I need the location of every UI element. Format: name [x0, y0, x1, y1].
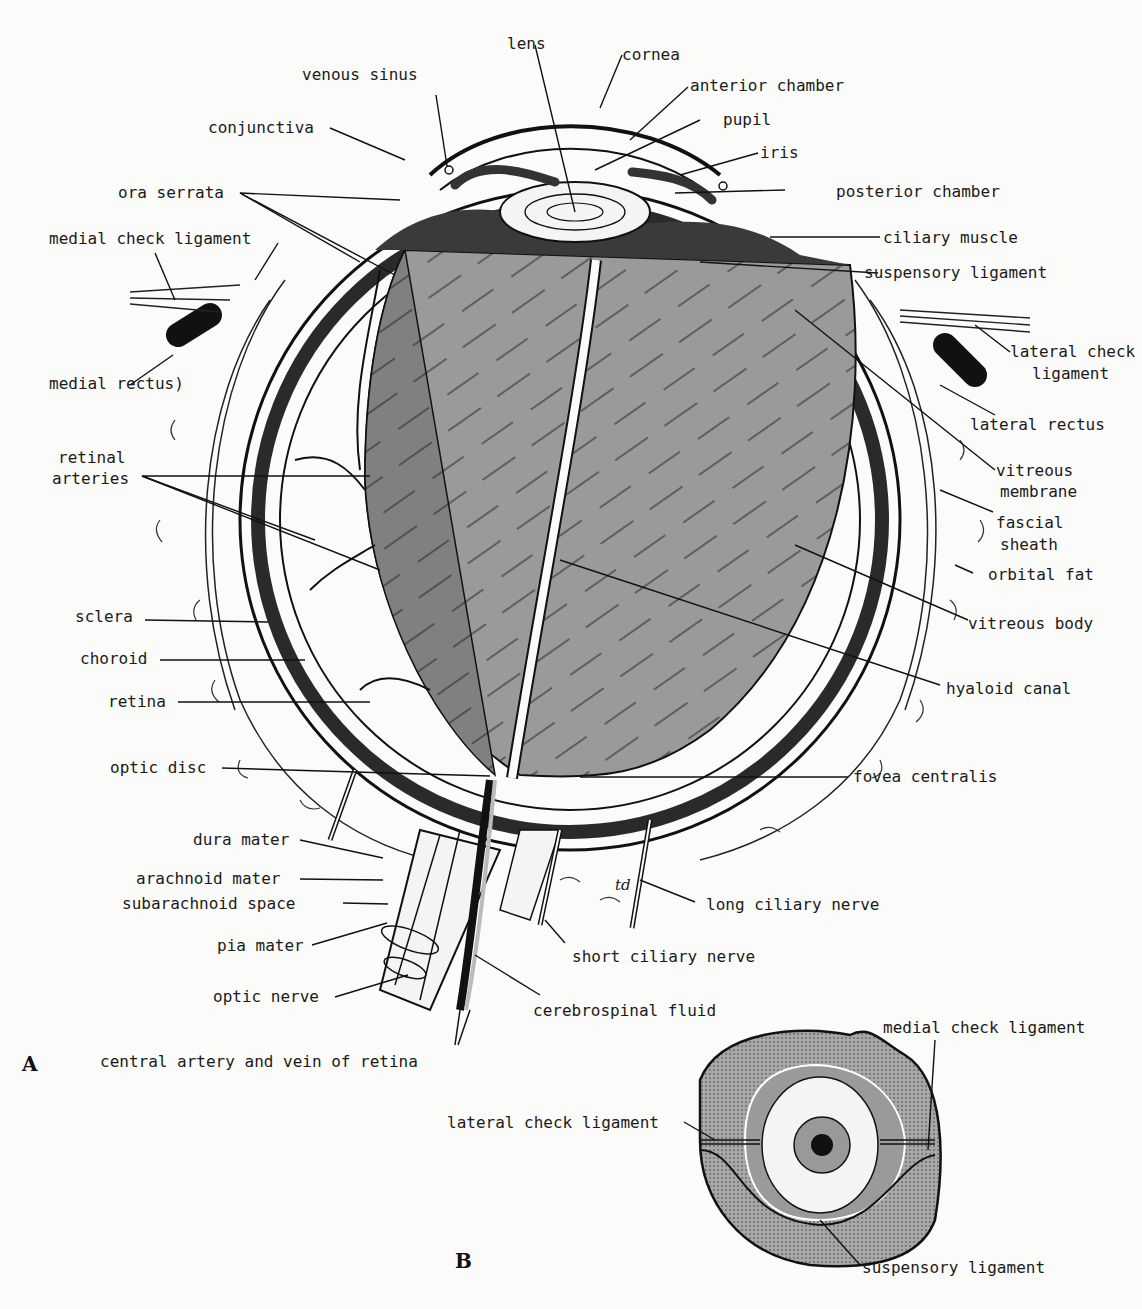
label-conjunctiva: conjunctiva — [208, 119, 314, 137]
label-lateral-rectus: lateral rectus — [970, 416, 1105, 434]
label-sclera: sclera — [75, 608, 133, 626]
label-hyaloid-canal: hyaloid canal — [946, 680, 1071, 698]
label-vitreous-membrane-line1: vitreous — [996, 462, 1073, 480]
label-ciliary-muscle: ciliary muscle — [883, 229, 1018, 247]
label-pia-mater: pia mater — [217, 937, 304, 955]
eye-anatomy-figure: lens cornea venous sinus anterior chambe… — [0, 0, 1142, 1309]
panel-b-letter: B — [455, 1249, 472, 1273]
label-retina: retina — [108, 693, 166, 711]
medial-rectus-muscle — [130, 285, 240, 335]
label-posterior-chamber: posterior chamber — [836, 183, 1000, 201]
label-dura-mater: dura mater — [193, 831, 289, 849]
label-cornea: cornea — [622, 46, 680, 64]
label-long-ciliary-nerve: long ciliary nerve — [706, 896, 879, 914]
label-optic-disc: optic disc — [110, 759, 206, 777]
label-lateral-check-ligament-line2: ligament — [1032, 365, 1109, 383]
iris-right — [632, 172, 712, 200]
label-retinal-arteries-line1: retinal — [58, 449, 125, 467]
label-b-medial-check-ligament: medial check ligament — [883, 1019, 1085, 1037]
label-medial-check-ligament: medial check ligament — [49, 230, 251, 248]
label-lens: lens — [507, 35, 546, 53]
cornea-outline — [430, 126, 720, 175]
label-pupil: pupil — [723, 111, 771, 129]
venous-sinus-right — [719, 182, 727, 190]
label-subarachnoid-space: subarachnoid space — [122, 895, 295, 913]
label-retinal-arteries-line2: arteries — [52, 470, 129, 488]
label-suspensory-ligament: suspensory ligament — [864, 264, 1047, 282]
label-iris: iris — [760, 144, 799, 162]
label-cerebrospinal-fluid: cerebrospinal fluid — [533, 1002, 716, 1020]
label-central-artery-vein: central artery and vein of retina — [100, 1053, 418, 1071]
label-b-lateral-check-ligament: lateral check ligament — [447, 1114, 659, 1132]
label-arachnoid-mater: arachnoid mater — [136, 870, 281, 888]
label-short-ciliary-nerve: short ciliary nerve — [572, 948, 755, 966]
label-vitreous-body: vitreous body — [968, 615, 1093, 633]
label-orbital-fat: orbital fat — [988, 566, 1094, 584]
label-fovea-centralis: fovea centralis — [853, 768, 998, 786]
label-fascial-sheath-line1: fascial — [996, 514, 1063, 532]
iris-left — [455, 170, 555, 185]
label-ora-serrata: ora serrata — [118, 184, 224, 202]
label-choroid: choroid — [80, 650, 147, 668]
panel-b-eye-front-view — [700, 1031, 941, 1266]
label-medial-rectus: medial rectus) — [49, 375, 184, 393]
venous-sinus-left — [445, 166, 453, 174]
label-anterior-chamber: anterior chamber — [690, 77, 844, 95]
label-lateral-check-ligament-line1: lateral check — [1010, 343, 1135, 361]
label-venous-sinus: venous sinus — [302, 66, 418, 84]
panel-a-letter: A — [22, 1052, 38, 1076]
label-vitreous-membrane-line2: membrane — [1000, 483, 1077, 501]
label-optic-nerve: optic nerve — [213, 988, 319, 1006]
artist-signature: td — [615, 876, 631, 894]
label-b-suspensory-ligament: suspensory ligament — [862, 1259, 1045, 1277]
label-fascial-sheath-line2: sheath — [1000, 536, 1058, 554]
